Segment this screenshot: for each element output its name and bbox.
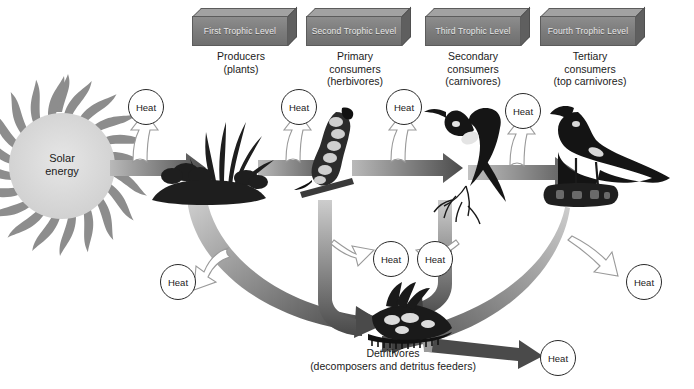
heat-label: Heat — [136, 102, 156, 113]
trophic-box-second-label: Second Trophic Level — [306, 16, 402, 46]
trophic-box-third: Third Trophic Level — [425, 8, 521, 48]
flow-primary-to-secondary — [352, 153, 463, 183]
trophic-box-first-label: First Trophic Level — [192, 16, 288, 46]
heat-bubble-hawk-decay: Heat — [626, 264, 662, 300]
trophic-box-third-label: Third Trophic Level — [425, 16, 521, 46]
heat-bubble-primary: Heat — [281, 89, 317, 125]
trophic-box-second: Second Trophic Level — [306, 8, 402, 48]
heat-label: Heat — [381, 254, 401, 265]
caption-primary-consumers: Primary consumers (herbivores) — [300, 50, 410, 88]
trophic-box-fourth-label: Fourth Trophic Level — [540, 16, 636, 46]
trophic-box-first: First Trophic Level — [192, 8, 288, 48]
heat-label: Heat — [168, 277, 188, 288]
heat-bubble-secondary: Heat — [386, 89, 422, 125]
heat-label: Heat — [289, 102, 309, 113]
heat-bubble-plant-decay: Heat — [160, 264, 196, 300]
decay-pathways — [188, 200, 570, 369]
caption-producers: Producers (plants) — [186, 50, 296, 75]
heat-bubble-caterpillar-decay: Heat — [373, 241, 409, 277]
heat-label: Heat — [513, 106, 533, 117]
heat-label: Heat — [634, 277, 654, 288]
caption-tertiary-consumers: Tertiary consumers (top carnivores) — [528, 50, 652, 88]
heat-label: Heat — [548, 353, 568, 364]
solar-energy-label: Solar energy — [22, 152, 102, 178]
heat-label: Heat — [425, 254, 445, 265]
heat-bubble-producers: Heat — [128, 89, 164, 125]
organism-hawk — [544, 106, 671, 207]
heat-label: Heat — [394, 102, 414, 113]
heat-bubble-detritivores: Heat — [540, 340, 576, 376]
heat-arrow-hawk-decay — [568, 236, 618, 276]
caption-detritivores: Detritivores (decomposers and detritus f… — [268, 347, 518, 372]
heat-bubble-songbird-decay: Heat — [417, 241, 453, 277]
trophic-box-fourth: Fourth Trophic Level — [540, 8, 636, 48]
heat-arrow-caterpillar-decay — [331, 240, 374, 266]
diagram-canvas: First Trophic Level Second Trophic Level… — [0, 0, 694, 389]
caption-secondary-consumers: Secondary consumers (carnivores) — [418, 50, 528, 88]
heat-bubble-tertiary: Heat — [505, 93, 541, 129]
